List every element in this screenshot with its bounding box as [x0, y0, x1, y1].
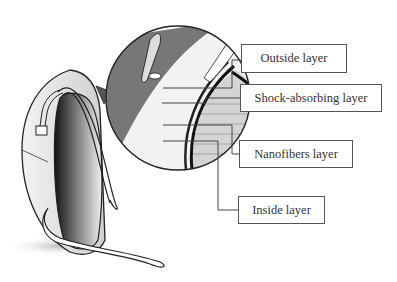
- inside-layer-label: Inside layer: [238, 196, 325, 224]
- shock-absorbing-layer-label: Shock-absorbing layer: [240, 84, 382, 112]
- outside-layer-label: Outside layer: [241, 44, 347, 73]
- shock-absorbing-layer-text: Shock-absorbing layer: [255, 91, 368, 106]
- nanofibers-layer-label: Nanofibers layer: [239, 140, 353, 168]
- inside-layer-text: Inside layer: [252, 203, 311, 218]
- outside-layer-text: Outside layer: [261, 51, 328, 66]
- nanofibers-layer-text: Nanofibers layer: [254, 147, 338, 162]
- magnified-cross-section: [100, 20, 260, 170]
